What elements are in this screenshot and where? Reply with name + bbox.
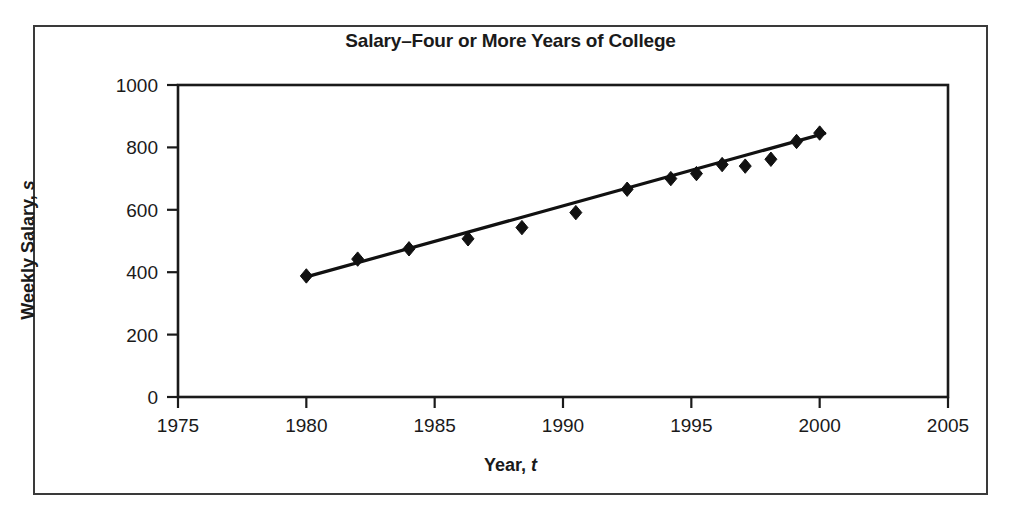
- trend-line: [306, 133, 824, 277]
- x-tick-label: 1985: [414, 415, 456, 436]
- figure-container: Salary–Four or More Years of College Wee…: [0, 0, 1021, 523]
- data-point-marker: [621, 182, 633, 196]
- y-tick-label: 1000: [116, 75, 158, 96]
- x-tick-label: 2000: [799, 415, 841, 436]
- x-tick-label: 1975: [157, 415, 199, 436]
- data-point-marker: [814, 126, 826, 140]
- y-axis-ticks: [167, 85, 178, 397]
- data-point-marker: [765, 152, 777, 166]
- y-tick-label: 800: [126, 137, 158, 158]
- data-point-marker: [739, 159, 751, 173]
- x-axis-tick-labels: 1975198019851990199520002005: [157, 415, 969, 436]
- y-tick-label: 0: [147, 387, 158, 408]
- y-tick-label: 400: [126, 262, 158, 283]
- x-tick-label: 1980: [285, 415, 327, 436]
- plot-area: 1975198019851990199520002005 02004006008…: [0, 0, 1021, 523]
- data-point-marker: [570, 205, 582, 219]
- data-point-marker: [300, 269, 312, 283]
- x-tick-label: 2005: [927, 415, 969, 436]
- data-point-marker: [403, 242, 415, 256]
- x-axis-ticks: [178, 397, 948, 408]
- x-tick-label: 1990: [542, 415, 584, 436]
- axis-lines: [178, 85, 948, 397]
- y-tick-label: 600: [126, 200, 158, 221]
- data-point-marker: [516, 220, 528, 234]
- x-tick-label: 1995: [670, 415, 712, 436]
- y-axis-tick-labels: 02004006008001000: [116, 75, 158, 408]
- data-point-marker: [791, 134, 803, 148]
- y-tick-label: 200: [126, 325, 158, 346]
